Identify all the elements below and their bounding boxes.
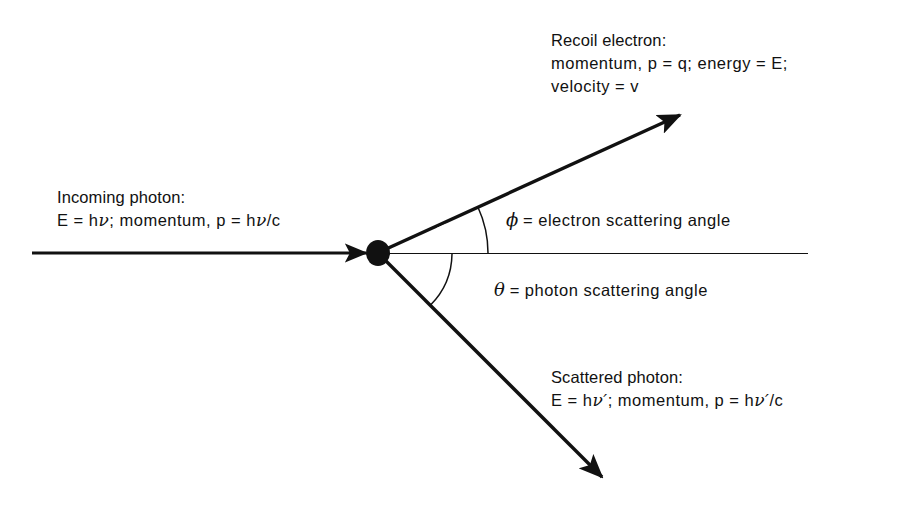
incoming-photon-label: Incoming photon: E = hν; momentum, p = h… <box>57 186 281 232</box>
phi-angle-label: ϕ = electron scattering angle <box>506 208 731 232</box>
scattered-photon-line-2: E = hν′; momentum, p = hν′/c <box>551 389 783 412</box>
recoil-electron-line-2: momentum, p = q; energy = E; <box>551 52 788 75</box>
nu-prime-symbol-2: ν′ <box>754 390 769 410</box>
phi-symbol: ϕ <box>506 209 518 230</box>
nu-symbol: ν <box>99 210 110 230</box>
incoming-photon-line-1: Incoming photon: <box>57 186 281 209</box>
theta-angle-arc <box>430 253 452 305</box>
phi-angle-arc <box>478 207 488 253</box>
incoming-photon-momentum-prefix: ; momentum, p = h <box>109 211 256 229</box>
recoil-electron-label: Recoil electron: momentum, p = q; energy… <box>551 29 788 98</box>
scattered-photon-momentum-prefix: ; momentum, p = h <box>608 391 755 409</box>
scattered-photon-line-1: Scattered photon: <box>551 366 783 389</box>
nu-symbol-2: ν <box>256 210 267 230</box>
incoming-photon-energy-prefix: E = h <box>57 211 99 229</box>
recoil-electron-line-3: velocity = v <box>551 75 788 98</box>
scattering-vertex-dot <box>366 240 390 266</box>
scattered-photon-label: Scattered photon: E = hν′; momentum, p =… <box>551 366 783 412</box>
theta-symbol: θ <box>494 279 505 300</box>
scattered-photon-energy-prefix: E = h <box>551 391 593 409</box>
incoming-photon-momentum-suffix: /c <box>267 211 281 229</box>
compton-scattering-figure: Recoil electron: momentum, p = q; energy… <box>0 0 902 522</box>
scattered-photon-momentum-suffix: /c <box>769 391 783 409</box>
phi-angle-text: = electron scattering angle <box>523 211 731 229</box>
theta-angle-text: = photon scattering angle <box>510 281 708 299</box>
theta-angle-label: θ = photon scattering angle <box>494 278 708 302</box>
nu-prime-symbol: ν′ <box>593 390 608 410</box>
incoming-photon-line-2: E = hν; momentum, p = hν/c <box>57 209 281 232</box>
recoil-electron-line-1: Recoil electron: <box>551 29 788 52</box>
